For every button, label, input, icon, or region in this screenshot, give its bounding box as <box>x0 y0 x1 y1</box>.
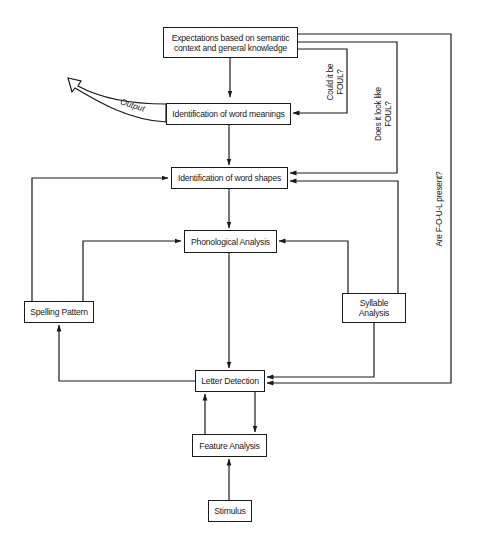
label-could-it-be-line1: Could it be <box>326 57 336 107</box>
node-spelling-pattern: Spelling Pattern <box>24 301 94 323</box>
node-syllable-line1: Syllable <box>360 298 389 308</box>
output-arrow-icon <box>68 78 166 122</box>
node-expectations-line1: Expectations based on semantic <box>172 33 290 43</box>
node-feature-analysis: Feature Analysis <box>192 434 267 457</box>
node-letter-detection-label: Letter Detection <box>201 376 258 386</box>
label-does-it-look-line1: Does it look like <box>374 79 384 149</box>
node-spelling-label: Spelling Pattern <box>30 307 87 317</box>
label-could-it-be: Could it be FOUL? <box>326 57 348 107</box>
connector-lines <box>0 0 477 551</box>
node-stimulus-label: Stimulus <box>214 506 245 516</box>
node-word-shapes: Identification of word shapes <box>171 167 288 189</box>
node-word-meanings: Identification of word meanings <box>166 103 291 125</box>
node-word-shapes-label: Identification of word shapes <box>178 173 281 183</box>
node-letter-detection: Letter Detection <box>195 370 265 392</box>
node-expectations: Expectations based on semantic context a… <box>163 27 298 58</box>
node-feature-analysis-label: Feature Analysis <box>199 441 259 451</box>
node-phonological-label: Phonological Analysis <box>191 237 270 247</box>
label-does-it-look-line2: FOUL? <box>384 79 394 149</box>
node-expectations-line2: context and general knowledge <box>174 43 287 53</box>
node-syllable-line2: Analysis <box>359 308 389 318</box>
node-word-meanings-label: Identification of word meanings <box>172 109 284 119</box>
label-could-it-be-line2: FOUL? <box>336 57 346 107</box>
label-are-foul-present-text: Are F-O-U-L present? <box>435 172 444 247</box>
node-stimulus: Stimulus <box>208 500 252 522</box>
node-phonological: Phonological Analysis <box>184 230 277 253</box>
label-are-foul-present: Are F-O-U-L present? <box>435 159 447 259</box>
node-syllable-analysis: Syllable Analysis <box>342 293 406 323</box>
label-does-it-look: Does it look like FOUL? <box>374 79 396 149</box>
